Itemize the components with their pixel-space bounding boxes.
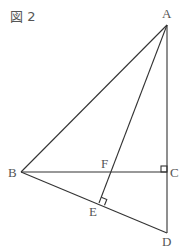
label-c: C <box>170 165 179 180</box>
segment-ae <box>99 25 167 203</box>
label-f: F <box>101 156 108 171</box>
label-d: D <box>162 234 171 249</box>
segment-ab <box>21 25 167 172</box>
right-angle-mark-e <box>101 197 107 205</box>
label-e: E <box>89 204 97 219</box>
label-a: A <box>162 6 172 21</box>
right-angle-mark-c <box>161 166 167 172</box>
segment-bd <box>21 172 167 233</box>
label-b: B <box>8 165 17 180</box>
geometry-diagram: A B C D E F <box>0 0 182 250</box>
